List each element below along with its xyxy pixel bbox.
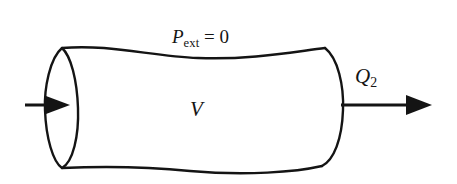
outlet-flow-label: Q2 [355, 66, 377, 90]
pressure-subscript: ext [184, 36, 200, 50]
volume-label: V [190, 99, 203, 120]
pressure-symbol: P [172, 26, 184, 47]
flow-subscript: 2 [370, 75, 377, 90]
flow-symbol: Q [355, 64, 370, 88]
pressure-value: 0 [220, 26, 230, 47]
external-pressure-label: Pext = 0 [172, 27, 229, 49]
figure-canvas: Pext = 0 V Q2 [0, 0, 457, 184]
volume-symbol: V [190, 97, 203, 121]
pressure-relation: = [199, 26, 219, 47]
